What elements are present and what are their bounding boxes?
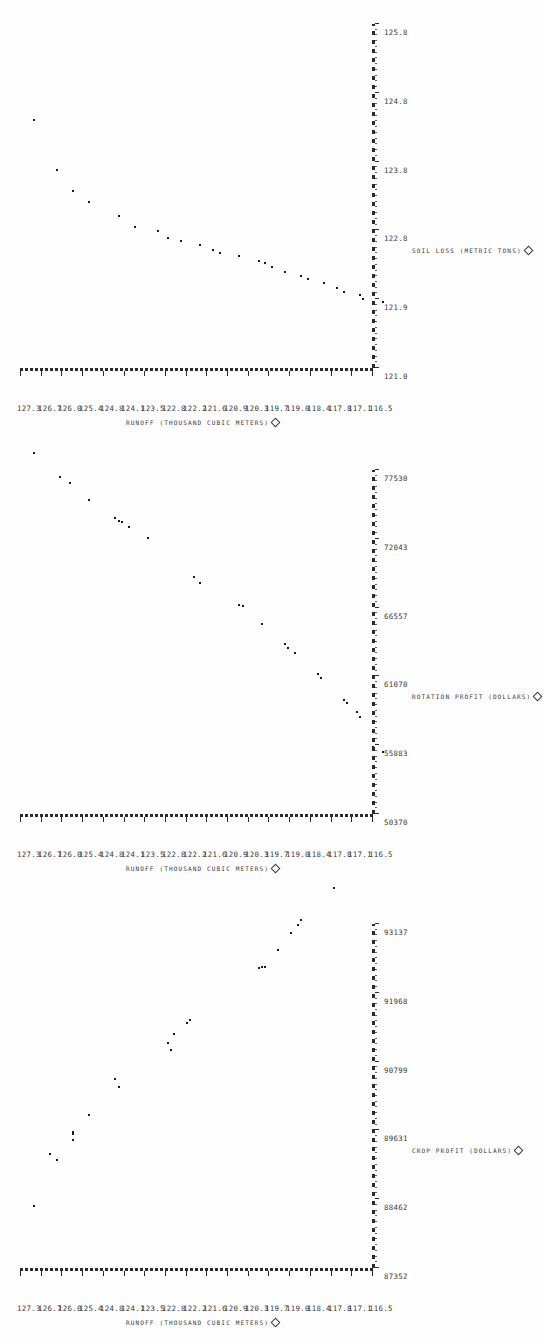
x-minor-tick xyxy=(375,521,377,522)
x-minor-tick xyxy=(375,34,377,35)
data-point xyxy=(333,887,335,889)
x-tick-label: 88462 xyxy=(384,1203,408,1212)
data-point xyxy=(33,119,35,121)
x-minor-tick xyxy=(375,929,377,930)
x-minor-tick xyxy=(375,270,377,271)
y-axis-title-2: RUNOFF (THOUSAND CUBIC METERS) xyxy=(126,864,282,873)
plot-area-3 xyxy=(20,24,372,368)
data-point xyxy=(118,1086,120,1088)
data-point xyxy=(258,967,260,969)
x-minor-tick xyxy=(375,544,377,545)
x-minor-tick xyxy=(375,561,377,562)
x-tick-label: 66557 xyxy=(384,612,408,621)
x-minor-tick xyxy=(375,356,377,357)
panel-body-3: 121.0121.9122.8123.8124.8125.8 127.3126.… xyxy=(6,0,436,430)
x-minor-tick xyxy=(375,1055,377,1056)
x-tick-label: 89631 xyxy=(384,1134,408,1143)
x-minor-tick xyxy=(375,235,377,236)
x-minor-tick xyxy=(375,538,377,539)
data-point xyxy=(33,1205,35,1207)
x-minor-tick xyxy=(375,1061,377,1062)
x-minor-tick xyxy=(375,1038,377,1039)
y-tick xyxy=(331,817,332,822)
y-axis-title-1: RUNOFF (THOUSAND CUBIC METERS) xyxy=(126,1318,282,1327)
y-tick xyxy=(41,817,42,822)
x-minor-tick xyxy=(375,1158,377,1159)
x-minor-tick xyxy=(375,69,377,70)
data-point xyxy=(294,652,296,654)
x-minor-tick xyxy=(375,693,377,694)
data-point xyxy=(199,244,201,246)
x-minor-tick xyxy=(375,475,377,476)
x-minor-tick xyxy=(375,1095,377,1096)
data-point xyxy=(128,526,130,528)
x-minor-tick xyxy=(375,578,377,579)
x-minor-tick xyxy=(375,333,377,334)
x-minor-tick xyxy=(375,1112,377,1113)
x-minor-tick xyxy=(375,647,377,648)
y-tick xyxy=(165,817,166,822)
x-minor-tick xyxy=(375,532,377,533)
x-minor-tick xyxy=(375,813,377,814)
x-minor-tick xyxy=(375,178,377,179)
y-tick xyxy=(268,371,269,376)
x-minor-tick xyxy=(375,1187,377,1188)
data-point xyxy=(88,499,90,501)
x-minor-tick xyxy=(375,1261,377,1262)
x-minor-tick xyxy=(375,1009,377,1010)
data-point xyxy=(170,1049,172,1051)
data-point xyxy=(72,1133,74,1135)
x-tick-label: 93137 xyxy=(384,928,408,937)
diamond-icon xyxy=(271,1318,281,1328)
y-axis-title-3: RUNOFF (THOUSAND CUBIC METERS) xyxy=(126,418,282,427)
y-tick xyxy=(351,371,352,376)
x-minor-tick xyxy=(375,1204,377,1205)
y-tick xyxy=(20,817,21,822)
y-tick xyxy=(103,817,104,822)
data-point xyxy=(284,643,286,645)
x-minor-tick xyxy=(375,498,377,499)
diamond-icon xyxy=(271,418,281,428)
data-point xyxy=(346,703,348,705)
x-minor-tick xyxy=(375,149,377,150)
x-minor-tick xyxy=(375,1221,377,1222)
y-tick xyxy=(289,371,290,376)
x-minor-tick xyxy=(375,744,377,745)
x-minor-tick xyxy=(375,292,377,293)
x-minor-tick xyxy=(375,957,377,958)
x-minor-tick xyxy=(375,790,377,791)
x-minor-tick xyxy=(375,963,377,964)
data-point xyxy=(300,275,302,277)
y-tick xyxy=(310,371,311,376)
x-minor-tick xyxy=(375,727,377,728)
data-point xyxy=(323,282,325,284)
x-minor-tick xyxy=(375,1078,377,1079)
x-minor-tick xyxy=(375,1181,377,1182)
y-tick xyxy=(82,817,83,822)
x-minor-tick xyxy=(375,1049,377,1050)
data-point xyxy=(114,1078,116,1080)
x-minor-tick xyxy=(375,601,377,602)
x-minor-tick xyxy=(375,612,377,613)
x-minor-tick xyxy=(375,1066,377,1067)
x-tick-label: 72043 xyxy=(384,543,408,552)
x-minor-tick xyxy=(375,566,377,567)
plot-area-1 xyxy=(20,924,372,1268)
x-minor-tick xyxy=(375,1210,377,1211)
x-minor-tick xyxy=(375,310,377,311)
y-tick-label: 116.5 xyxy=(369,404,393,413)
x-minor-tick xyxy=(375,218,377,219)
y-tick xyxy=(268,817,269,822)
x-minor-tick xyxy=(375,1015,377,1016)
x-minor-tick xyxy=(375,515,377,516)
x-minor-tick xyxy=(375,252,377,253)
x-minor-tick xyxy=(375,247,377,248)
data-point xyxy=(317,673,319,675)
y-tick xyxy=(289,1271,290,1276)
x-minor-tick xyxy=(375,206,377,207)
x-minor-tick xyxy=(375,224,377,225)
x-tick-label: 55883 xyxy=(384,749,408,758)
y-tick xyxy=(103,1271,104,1276)
x-minor-tick xyxy=(375,652,377,653)
data-point xyxy=(277,949,279,951)
